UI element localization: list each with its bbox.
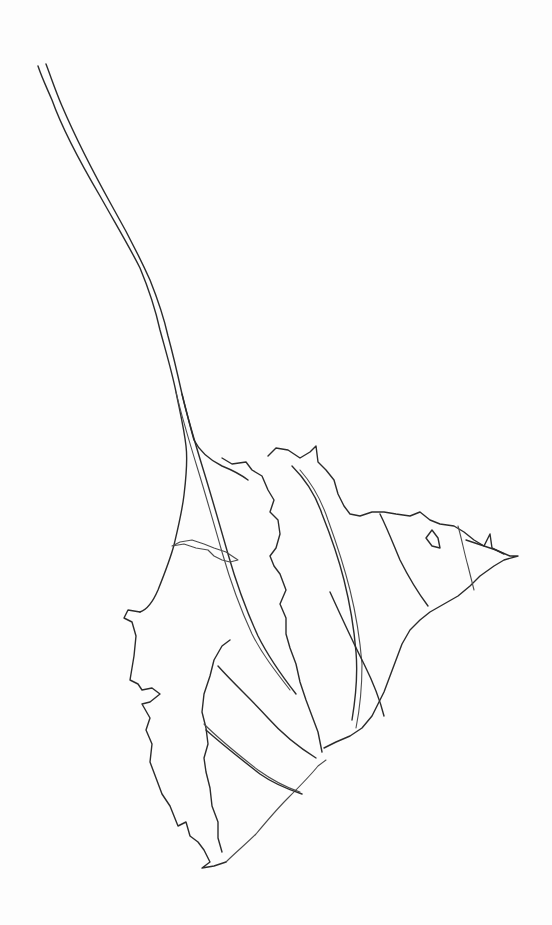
right-band-1 [380, 514, 428, 606]
upper-branch-outline [222, 458, 322, 752]
right-inner-vein-b [300, 470, 362, 728]
sketch-canvas [0, 0, 552, 925]
leaf-left-outline [124, 610, 226, 868]
band-1 [218, 666, 316, 758]
tip-spike [466, 534, 504, 554]
line-drawing [0, 0, 552, 925]
right-notch [426, 530, 440, 548]
stem-right-line [46, 64, 248, 480]
right-band-2 [458, 526, 474, 590]
right-inner-vein-c [330, 592, 384, 716]
right-inner-vein-a [292, 466, 357, 720]
stem-inner-line-b [182, 394, 296, 694]
stem-left-line [38, 66, 187, 612]
side-spike-left [172, 540, 238, 562]
right-upper-lobe [268, 446, 518, 748]
band-2 [204, 724, 300, 792]
leaf-bottom-right-edge [226, 760, 326, 862]
